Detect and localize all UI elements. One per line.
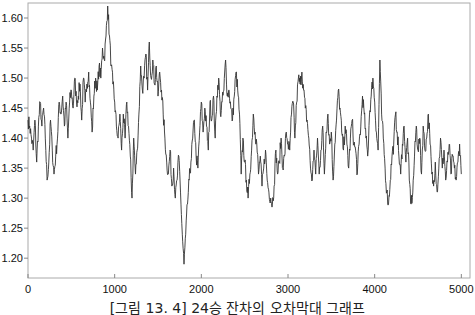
- y-axis: 1.201.251.301.351.401.451.501.551.60: [2, 12, 28, 264]
- y-tick-label: 1.50: [2, 72, 23, 84]
- x-tick-label: 4000: [362, 283, 386, 295]
- x-tick-label: 2000: [189, 283, 213, 295]
- x-tick-label: 0: [25, 283, 31, 295]
- plot-frame: [28, 3, 470, 278]
- y-tick-label: 1.55: [2, 42, 23, 54]
- y-tick-label: 1.35: [2, 162, 23, 174]
- y-tick-label: 1.40: [2, 132, 23, 144]
- y-tick-label: 1.60: [2, 12, 23, 24]
- x-tick-label: 3000: [276, 283, 300, 295]
- figure-caption: [그림 13. 4] 24승 잔차의 오차막대 그래프: [0, 297, 475, 315]
- y-tick-label: 1.45: [2, 102, 23, 114]
- y-tick-label: 1.25: [2, 222, 23, 234]
- y-tick-label: 1.20: [2, 252, 23, 264]
- y-tick-label: 1.30: [2, 192, 23, 204]
- x-tick-label: 1000: [102, 283, 126, 295]
- x-tick-label: 5000: [449, 283, 473, 295]
- line-chart: 1.201.251.301.351.401.451.501.551.60 010…: [0, 0, 475, 315]
